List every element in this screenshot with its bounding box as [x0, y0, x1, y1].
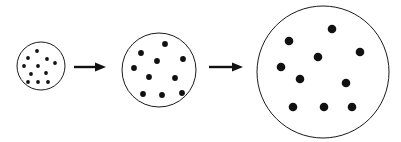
particle-dot	[46, 80, 50, 84]
diagram-canvas	[0, 0, 401, 142]
arrow-1-head	[95, 63, 106, 72]
particle-dot	[26, 80, 30, 84]
stage-group-3	[257, 6, 389, 138]
particle-dot	[146, 74, 152, 80]
particle-dot	[172, 75, 178, 81]
particle-dot	[44, 71, 48, 75]
particle-dot	[36, 80, 40, 84]
particle-dot	[342, 79, 351, 88]
particle-dot	[138, 50, 144, 56]
particle-dot	[29, 72, 33, 76]
particle-dot	[159, 92, 165, 98]
stages-layer	[17, 6, 389, 138]
particle-growth-diagram	[0, 0, 401, 142]
particle-dot	[36, 64, 40, 68]
particle-dot	[45, 57, 49, 61]
arrow-1	[74, 63, 106, 72]
particle-dot	[348, 103, 357, 112]
particle-dot	[53, 61, 57, 65]
particle-dot	[356, 48, 365, 57]
particle-dot	[277, 63, 286, 72]
particle-dot	[285, 37, 294, 46]
particle-dot	[22, 64, 26, 68]
particle-dot	[180, 56, 186, 62]
particle-dot	[179, 90, 185, 96]
circle-outline-3	[257, 6, 389, 138]
particle-dot	[162, 41, 168, 47]
stage-group-2	[122, 33, 196, 107]
particle-dot	[140, 91, 146, 97]
particle-dot	[296, 75, 305, 84]
arrow-2-head	[232, 63, 243, 72]
arrow-1-shaft	[74, 66, 95, 68]
arrow-2-shaft	[209, 66, 232, 68]
particle-dot	[26, 56, 30, 60]
particle-dot	[289, 103, 298, 112]
particle-dot	[328, 25, 337, 34]
arrow-2	[209, 63, 243, 72]
stage-group-1	[17, 42, 65, 90]
particle-dot	[154, 58, 160, 64]
particle-dot	[131, 65, 137, 71]
particle-dot	[320, 103, 329, 112]
particle-dot	[35, 49, 39, 53]
particle-dot	[314, 53, 323, 62]
